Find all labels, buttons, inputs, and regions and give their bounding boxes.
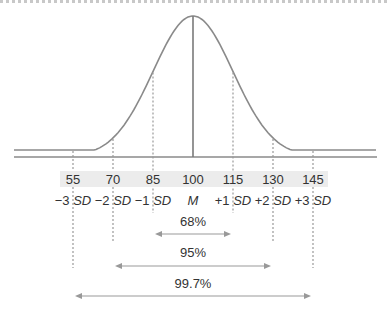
arrow-right-icon (264, 263, 271, 269)
value-label: 85 (131, 172, 175, 187)
normal-curve (14, 16, 376, 150)
sd-label: +2 SD (251, 193, 295, 208)
sd-label: −2 SD (91, 193, 135, 208)
value-label: 55 (51, 172, 95, 187)
range-percent-label: 99.7% (163, 276, 223, 291)
sd-label: +1 SD (211, 193, 255, 208)
value-label: 115 (211, 172, 255, 187)
value-label: 70 (91, 172, 135, 187)
range-percent-label: 95% (163, 245, 223, 260)
sd-label: M (171, 193, 215, 208)
value-label: 145 (291, 172, 335, 187)
sd-label: −3 SD (51, 193, 95, 208)
arrow-left-icon (75, 293, 82, 299)
sd-label: −1 SD (131, 193, 175, 208)
arrow-right-icon (304, 293, 311, 299)
arrow-left-icon (155, 231, 162, 237)
range-percent-label: 68% (163, 214, 223, 229)
arrow-left-icon (115, 263, 122, 269)
sd-label: +3 SD (291, 193, 335, 208)
bell-curve-diagram (0, 0, 387, 311)
arrow-right-icon (224, 231, 231, 237)
value-label: 100 (171, 172, 215, 187)
value-label: 130 (251, 172, 295, 187)
